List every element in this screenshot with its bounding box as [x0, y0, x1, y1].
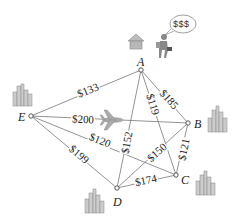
node-e	[29, 114, 33, 118]
node-label-b: B	[194, 118, 201, 130]
house-icon	[128, 34, 144, 49]
edge-label-e-b: $200	[71, 114, 95, 126]
tsp-diagram: $$$ A B C D E $133 $185 $119 $152 $200 $…	[0, 0, 242, 222]
salesperson-icon	[156, 34, 172, 58]
node-c	[174, 173, 178, 177]
city-skyline-icon-d	[85, 189, 104, 213]
node-label-c: C	[181, 174, 189, 186]
airplane-icon	[100, 110, 123, 130]
city-skyline-icon-c	[196, 171, 215, 195]
city-skyline-icon-e	[13, 84, 32, 106]
node-label-a: A	[137, 56, 144, 68]
speech-bubble-text: $$$	[173, 19, 190, 29]
city-skyline-icon-b	[208, 106, 227, 132]
node-label-e: E	[18, 111, 25, 123]
node-b	[186, 121, 190, 125]
node-d	[115, 186, 119, 190]
node-label-d: D	[113, 196, 122, 208]
graph-canvas	[0, 0, 242, 222]
edge-a-d	[117, 70, 141, 188]
